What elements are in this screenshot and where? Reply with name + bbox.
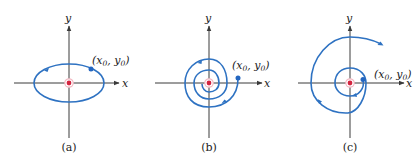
panel-a: x y (x0, y0) (a) [14,12,130,154]
panel-c: x y (x0, y0) (c) [298,12,413,154]
phase-portraits-figure: x y (x0, y0) (a) x y (x0, y0) (b) x y [0,0,418,163]
initial-point-label: (x0, y0) [374,68,412,82]
panel-caption: (a) [61,141,76,154]
panel-caption: (c) [343,141,358,154]
panel-caption: (b) [201,141,217,154]
x-axis-label: x [122,77,129,90]
initial-point-label: (x0, y0) [92,54,130,68]
y-axis-label: y [345,12,353,25]
initial-point [89,67,94,72]
y-axis-label: y [204,12,212,25]
x-axis-label: x [264,77,271,90]
equilibrium-point [207,81,212,86]
initial-point [236,76,241,81]
initial-point-label: (x0, y0) [232,59,270,73]
panel-b: x y (x0, y0) (b) [155,12,271,154]
equilibrium-point [348,81,353,86]
initial-point [361,77,366,82]
equilibrium-point [67,81,72,86]
y-axis-label: y [64,12,72,25]
